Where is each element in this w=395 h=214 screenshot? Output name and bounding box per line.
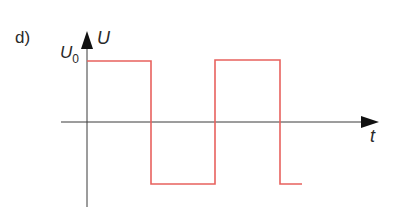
y-axis-label: U bbox=[97, 28, 111, 48]
level-label-main: U bbox=[60, 43, 73, 62]
level-label-u0: U0 bbox=[60, 43, 79, 66]
y-axis-arrow-icon bbox=[81, 31, 93, 49]
figure-label: d) bbox=[15, 28, 30, 47]
square-wave-diagram: d) U U0 t bbox=[0, 0, 395, 214]
x-axis-label: t bbox=[370, 126, 376, 146]
level-label-sub: 0 bbox=[72, 52, 79, 66]
